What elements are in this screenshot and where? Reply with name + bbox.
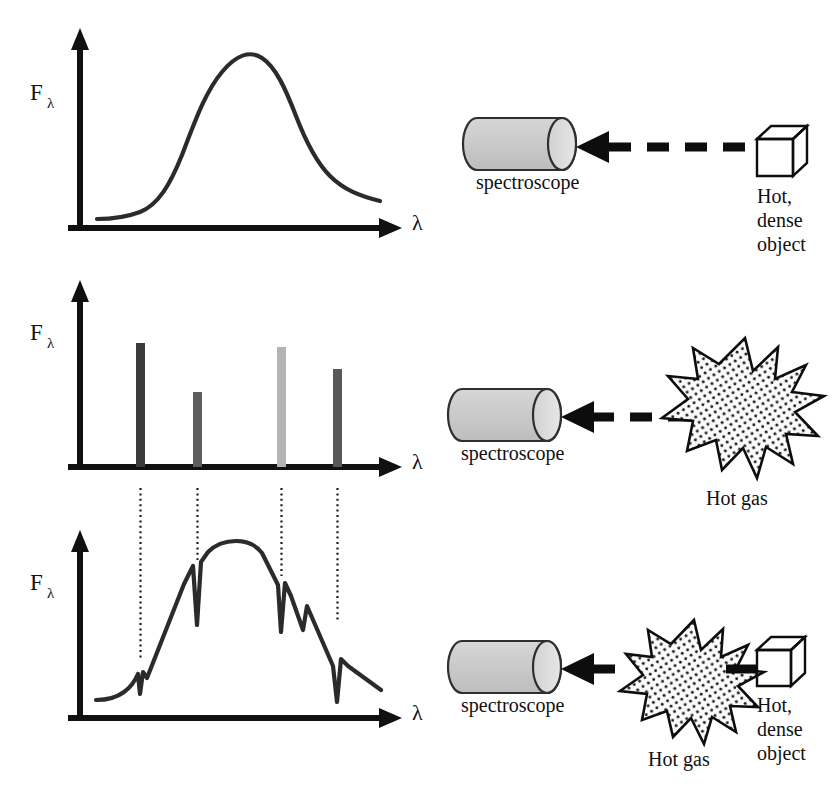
emission-line-1 <box>136 343 145 467</box>
figure-canvas: F λ λ spectroscope Hot, dense object <box>0 0 837 788</box>
hot-gas-label-3: Hot gas <box>648 748 710 771</box>
hot-dense-label-3-line2: dense <box>757 718 803 740</box>
spectroscope-icon-1 <box>463 118 576 170</box>
emission-line-3 <box>277 347 286 467</box>
spectroscope-icon-2 <box>448 389 561 441</box>
x-axis-label-emission: λ <box>412 449 423 474</box>
x-axis-label-continuous: λ <box>412 210 423 235</box>
y-axis-label-absorption: F <box>30 570 43 595</box>
hot-dense-label-3-line1: Hot, <box>757 694 792 716</box>
spectroscope-label-2: spectroscope <box>461 442 564 465</box>
spectroscope-label-1: spectroscope <box>476 171 579 194</box>
y-axis-sublabel-absorption: λ <box>47 585 55 601</box>
hot-dense-label-1-line2: dense <box>757 209 803 231</box>
spectroscope-label-3: spectroscope <box>461 694 564 717</box>
y-axis-label-emission: F <box>30 320 43 345</box>
spectroscope-icon-3 <box>448 641 561 693</box>
emission-line-2 <box>193 392 202 467</box>
hot-gas-label-2: Hot gas <box>706 487 768 510</box>
diagram-svg: F λ λ spectroscope Hot, dense object <box>0 0 837 788</box>
y-axis-sublabel-emission: λ <box>47 335 55 351</box>
y-axis-sublabel-continuous: λ <box>47 95 55 111</box>
hot-dense-label-1-line1: Hot, <box>757 185 792 207</box>
emission-line-4 <box>333 369 342 467</box>
y-axis-label-continuous: F <box>30 80 43 105</box>
hot-dense-label-1-line3: object <box>757 233 806 256</box>
x-axis-label-absorption: λ <box>412 700 423 725</box>
hot-dense-label-3-line3: object <box>757 742 806 765</box>
